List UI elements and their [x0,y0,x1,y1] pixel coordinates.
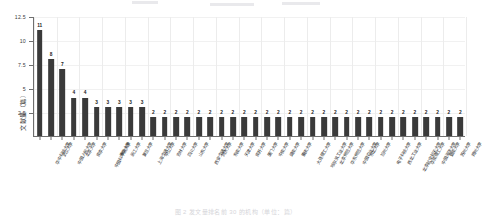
bar[interactable] [253,117,259,136]
x-axis-tick-label: 兰州大学 [379,141,392,158]
y-axis-tick-label: 7.5 [0,62,31,68]
bar-slot: 4 [79,17,90,136]
bar-slot: 2 [341,17,352,136]
bar-slot: 2 [193,17,204,136]
x-axis-tick-mark [403,136,404,140]
bar[interactable] [412,117,418,136]
x-axis-tick-mark [244,136,245,140]
gridline-vertical [466,17,467,136]
bar-value-label: 2 [197,111,200,116]
bar-value-label: 2 [152,111,155,116]
x-axis-tick-mark [289,136,290,140]
bar[interactable] [446,117,452,136]
bar-value-label: 2 [175,111,178,116]
bar[interactable] [401,117,407,136]
bar-slot: 2 [295,17,306,136]
x-axis-tick-mark [198,136,199,140]
bar[interactable] [94,107,100,136]
bar[interactable] [389,117,395,136]
bar[interactable] [48,59,54,136]
x-axis-tick-mark [210,136,211,140]
bar[interactable] [71,98,77,136]
bar-value-label: 2 [243,111,246,116]
x-axis-tick-mark [232,136,233,140]
x-axis-tick-mark [39,136,40,140]
bar[interactable] [298,117,304,136]
bar[interactable] [37,30,43,136]
x-axis-tick-label: 南开大学 [254,141,267,158]
bar[interactable] [276,117,282,136]
bar-slot: 2 [409,17,420,136]
x-axis-tick-mark [255,136,256,140]
bar[interactable] [196,117,202,136]
y-axis-tick-label: 10 [0,38,31,44]
x-axis-tick-mark [107,136,108,140]
bar[interactable] [378,117,384,136]
bar-value-label: 2 [220,111,223,116]
bar[interactable] [241,117,247,136]
bar[interactable] [207,117,213,136]
x-axis-tick-mark [380,136,381,140]
bar[interactable] [185,117,191,136]
bar-slot: 2 [205,17,216,136]
bar-slot: 2 [432,17,443,136]
y-axis-tick-mark [29,17,33,18]
top-faint-strip [132,1,332,8]
bar[interactable] [264,117,270,136]
bar-value-label: 2 [425,111,428,116]
bar-value-label: 2 [209,111,212,116]
bar-value-label: 2 [436,111,439,116]
bar[interactable] [128,107,134,136]
bar-value-label: 2 [345,111,348,116]
top-fragment [210,3,254,6]
x-axis-tick-mark [187,136,188,140]
y-axis-tick-mark [29,41,33,42]
bar[interactable] [435,117,441,136]
bar[interactable] [332,117,338,136]
bar[interactable] [105,107,111,136]
bar-slot: 2 [170,17,181,136]
x-axis-tick-mark [369,136,370,140]
bar[interactable] [287,117,293,136]
x-axis-tick-mark [335,136,336,140]
x-axis-tick-mark [141,136,142,140]
x-axis-tick-label: 郑州大学 [470,141,483,158]
bar[interactable] [344,117,350,136]
bar-slot: 3 [114,17,125,136]
y-axis-label: 文献量（篇） [18,92,27,131]
bar[interactable] [310,117,316,136]
bar[interactable] [457,117,463,136]
bar-slot: 2 [273,17,284,136]
x-axis-tick-mark [62,136,63,140]
x-axis-tick-mark [73,136,74,140]
x-axis-tick-mark [460,136,461,140]
x-axis-tick-mark [176,136,177,140]
bar-slot: 2 [455,17,466,136]
bar-value-label: 7 [61,63,64,68]
bar[interactable] [219,117,225,136]
bar-value-label: 2 [448,111,451,116]
bar-slot: 2 [239,17,250,136]
bar[interactable] [151,117,157,136]
bar[interactable] [230,117,236,136]
bar-value-label: 2 [459,111,462,116]
x-axis-tick-mark [51,136,52,140]
x-axis-tick-mark [301,136,302,140]
bar[interactable] [82,98,88,136]
bar[interactable] [60,69,66,136]
x-axis-tick-mark [426,136,427,140]
bar[interactable] [162,117,168,136]
bar-slot: 2 [250,17,261,136]
bar-slot: 2 [398,17,409,136]
bar[interactable] [321,117,327,136]
y-axis-tick-mark [29,113,33,114]
y-axis-tick-label: 12.5 [0,14,31,20]
bar[interactable] [173,117,179,136]
x-axis-tick-mark [119,136,120,140]
bar[interactable] [367,117,373,136]
bar[interactable] [139,107,145,136]
bar[interactable] [116,107,122,136]
bar[interactable] [355,117,361,136]
bar[interactable] [423,117,429,136]
